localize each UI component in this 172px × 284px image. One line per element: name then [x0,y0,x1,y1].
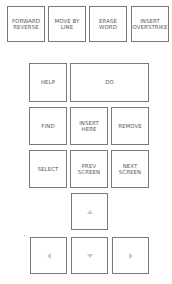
key-label: PREV SCREEN [78,163,100,176]
key-find[interactable]: FIND [29,107,67,145]
key-label: FORWARD REVERSE [12,18,40,31]
key-label: INSERT OVERSTRIKE [133,18,168,31]
arrow-right-icon [129,253,133,259]
key-insert-here[interactable]: INSERT HERE [70,107,108,145]
arrow-up-icon [87,210,93,214]
key-forward-reverse[interactable]: FORWARD REVERSE [7,6,45,42]
key-next-screen[interactable]: NEXT SCREEN [111,150,149,188]
key-erase-word[interactable]: ERASE WORD [89,6,127,42]
key-prev-screen[interactable]: PREV SCREEN [70,150,108,188]
key-label: MOVE BY LINE [54,18,79,31]
key-remove[interactable]: REMOVE [111,107,149,145]
arrow-down-icon [87,254,93,258]
key-label: ERASE WORD [99,18,117,31]
stray-dot [24,235,25,236]
key-do[interactable]: DO [70,63,149,102]
key-label: NEXT SCREEN [119,163,141,176]
key-move-by-line[interactable]: MOVE BY LINE [48,6,86,42]
key-arrow-down[interactable] [71,237,108,274]
key-arrow-left[interactable] [30,237,67,274]
key-label: DO [105,79,114,85]
key-label: SELECT [38,166,59,172]
key-label: FIND [41,123,54,129]
key-arrow-up[interactable] [71,193,108,230]
key-label: HELP [41,79,55,85]
key-select[interactable]: SELECT [29,150,67,188]
arrow-left-icon [47,253,51,259]
key-label: REMOVE [118,123,142,129]
key-arrow-right[interactable] [112,237,149,274]
key-insert-overstrike[interactable]: INSERT OVERSTRIKE [131,6,169,42]
key-help[interactable]: HELP [29,63,67,102]
key-label: INSERT HERE [79,120,99,133]
